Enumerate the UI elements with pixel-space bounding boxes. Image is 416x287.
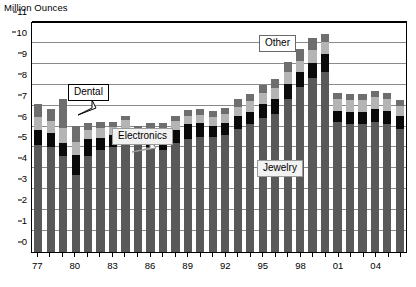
bar-segment-jewelry [109,147,117,252]
x-tick: 98 [294,253,307,283]
stacked-bar [34,104,42,252]
bar-segment-dental [259,93,267,103]
bar-segment-other [271,79,279,88]
bar-segment-electronics [333,111,341,122]
y-tick-label: 9 [22,47,27,58]
bar-segment-jewelry [358,124,366,252]
bar-segment-dental [371,97,379,109]
x-tick-mark [312,253,313,257]
x-tick-mark [400,253,401,257]
bar-slot [32,22,44,252]
bar-slot [394,22,406,252]
x-tick-mark [137,253,138,257]
x-tick-mark [325,253,326,257]
bar-segment-jewelry [346,124,354,252]
bar-slot [381,22,393,252]
x-tick-mark [300,253,301,257]
stacked-bar [396,100,404,252]
bar-segment-jewelry [34,145,42,252]
x-tick-label: 86 [145,260,156,271]
callout-dental: Dental [68,84,109,101]
bar-segment-other [246,94,254,101]
bar-slot [319,22,331,252]
callout-electronics: Electronics [112,128,173,145]
x-tick-label: 77 [32,260,43,271]
x-tick [119,253,132,283]
bar-segment-dental [196,115,204,123]
stacked-bar [84,123,92,252]
y-tick-label: 11 [17,6,27,17]
bar-slot [69,22,81,252]
stacked-bar [308,38,316,252]
bar-segment-electronics [346,112,354,125]
bar-segment-dental [209,117,217,125]
bar-segment-jewelry [72,175,80,252]
bar-segment-electronics [184,124,192,139]
stacked-bar [333,93,341,252]
y-tick-label: 6 [22,110,27,121]
bar-segment-dental [296,61,304,72]
bar-segment-dental [184,116,192,124]
bar-slot [294,22,306,252]
stacked-bar [72,126,80,253]
bar-segment-jewelry [271,114,279,252]
x-tick-mark [99,253,100,257]
bar-segment-electronics [371,109,379,123]
plot-top-border [32,22,407,23]
x-tick [319,253,332,283]
y-tick-label: 4 [22,152,27,163]
x-tick [131,253,144,283]
bar-slot [306,22,318,252]
x-tick: 83 [106,253,119,283]
bar-slot [94,22,106,252]
x-tick-mark [49,253,50,257]
x-tick-mark [212,253,213,257]
bar-segment-electronics [234,116,242,129]
stacked-bar [47,109,55,252]
x-tick [94,253,107,283]
x-tick: 95 [257,253,270,283]
x-tick-label: 98 [295,260,306,271]
bar-segment-other [284,62,292,72]
bar-segment-dental [333,99,341,110]
x-tick [382,253,395,283]
x-tick [156,253,169,283]
y-tick-label: 0 [22,236,27,247]
bar-segment-other [308,38,316,51]
bar-slot [269,22,281,252]
x-tick: 01 [332,253,345,283]
bar-slot [344,22,356,252]
bar-segment-other [59,99,67,127]
plot-area: 01234567891011 [31,22,407,253]
x-tick: 80 [69,253,82,283]
bar-segment-electronics [284,84,292,100]
bar-segment-electronics [321,54,329,72]
bar-segment-jewelry [234,129,242,252]
bar-segment-dental [308,50,316,63]
x-tick [44,253,57,283]
x-tick-mark [37,253,38,257]
plot-right-border [406,22,407,252]
stacked-bar [346,94,354,252]
bar-slot [82,22,94,252]
bar-slot [331,22,343,252]
x-tick-mark [338,253,339,257]
x-tick-label: 92 [220,260,231,271]
bar-segment-dental [383,99,391,110]
bar-slot [256,22,268,252]
y-tick-label: 7 [22,89,27,100]
bar-segment-other [72,126,80,143]
bar-segment-dental [246,101,254,111]
x-tick [244,253,257,283]
x-tick [194,253,207,283]
stacked-bar [296,49,304,252]
bar-segment-electronics [34,130,42,146]
y-tick-label: 3 [22,173,27,184]
bar-segment-dental [47,121,55,132]
bar-segment-other [296,49,304,60]
bar-series-group [32,22,406,252]
x-tick: 89 [181,253,194,283]
bar-segment-jewelry [184,139,192,252]
x-axis: 77808386899295980104 [31,253,407,283]
bar-segment-jewelry [134,143,142,252]
